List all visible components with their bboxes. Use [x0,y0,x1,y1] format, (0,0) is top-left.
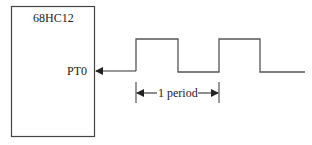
square-wave [136,39,305,72]
pin-label: PT0 [67,65,87,77]
period-label: 1 period [158,87,198,99]
chip-label: 68HC12 [33,12,74,24]
